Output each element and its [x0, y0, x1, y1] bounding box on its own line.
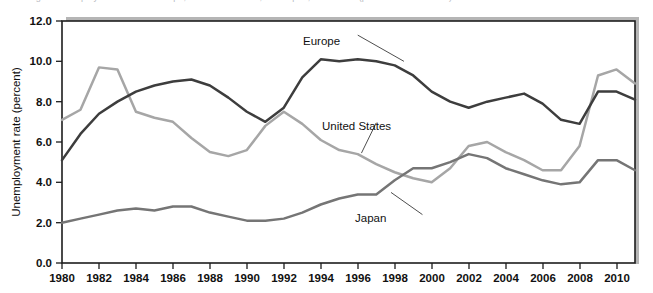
x-tick-label-2006: 2006 [530, 272, 556, 284]
y-tick-label-3: 6.0 [36, 136, 52, 148]
y-axis-label: Unemployment rate (percent) [10, 67, 22, 217]
x-tick-label-2000: 2000 [419, 272, 445, 284]
y-tick-label-4: 8.0 [36, 96, 52, 108]
x-tick-label-1988: 1988 [197, 272, 223, 284]
series-label-united-states: United States [322, 120, 391, 132]
leader-line-europe [358, 35, 404, 61]
chart-svg: Unemployment rate (percent) 0.0 2.0 4.0 … [0, 0, 653, 293]
y-tick-label-1: 2.0 [36, 217, 52, 229]
plot-frame [62, 21, 635, 263]
x-tick-label-1998: 1998 [382, 272, 408, 284]
x-tick-label-1980: 1980 [49, 272, 75, 284]
series-line-japan [62, 154, 635, 223]
series-group [62, 59, 635, 222]
x-tick-label-2008: 2008 [567, 272, 593, 284]
figure-container: Figure Unemployment rates in Europe, the… [0, 0, 653, 293]
y-tick-label-5: 10.0 [30, 55, 52, 67]
x-tick-label-1994: 1994 [308, 272, 334, 284]
x-tick-label-1982: 1982 [86, 272, 112, 284]
x-axis-ticks: 1980 1982 1984 1986 1988 1990 1992 1994 … [49, 263, 630, 284]
x-tick-label-1992: 1992 [271, 272, 297, 284]
x-tick-label-1984: 1984 [123, 272, 149, 284]
x-tick-label-2004: 2004 [493, 272, 519, 284]
x-tick-label-1986: 1986 [160, 272, 186, 284]
x-tick-label-2002: 2002 [456, 272, 482, 284]
x-tick-label-1990: 1990 [234, 272, 260, 284]
y-tick-label-0: 0.0 [36, 257, 52, 269]
y-axis-ticks: 0.0 2.0 4.0 6.0 8.0 10.0 12.0 [30, 15, 62, 269]
leader-line-japan [391, 192, 422, 214]
series-label-japan: Japan [355, 212, 386, 224]
y-tick-label-2: 4.0 [36, 176, 52, 188]
x-tick-label-2010: 2010 [604, 272, 630, 284]
y-tick-label-6: 12.0 [30, 15, 52, 27]
series-label-europe: Europe [303, 35, 340, 47]
series-line-europe [62, 59, 635, 160]
x-tick-label-1996: 1996 [345, 272, 371, 284]
